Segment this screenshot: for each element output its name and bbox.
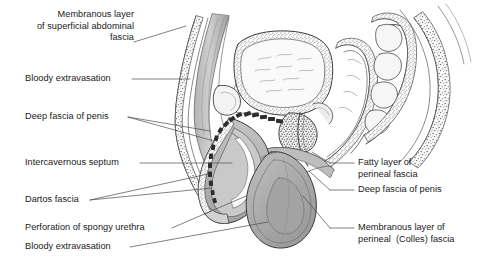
rectum bbox=[325, 38, 378, 167]
label-deep-fascia-of-penis-left: Deep fascia of penis bbox=[25, 111, 109, 123]
label-line-3: fascia bbox=[110, 32, 134, 42]
label-line-2: perineal (Colles) fascia bbox=[358, 234, 455, 244]
anatomical-figure: Membranous layerof superficial abdominal… bbox=[0, 0, 494, 264]
label-bloody-extravasation-lower: Bloody extravasation bbox=[25, 241, 111, 253]
label-line-2: of superficial abdominal bbox=[37, 21, 134, 31]
label-intercavernous-septum: Intercavernous septum bbox=[25, 157, 119, 169]
label-membranous-layer-of-perineal-colles-fascia: Membranous layer ofperineal (Colles) fas… bbox=[358, 222, 455, 245]
label-line-2: perineal fascia bbox=[358, 169, 418, 179]
label-bloody-extravasation-upper: Bloody extravasation bbox=[25, 73, 111, 85]
label-fatty-layer-of-perineal-fascia: Fatty layer ofperineal fascia bbox=[358, 157, 418, 180]
label-line-1: Membranous layer bbox=[58, 9, 134, 19]
label-membranous-layer-superficial-abdominal-fascia: Membranous layerof superficial abdominal… bbox=[18, 9, 134, 44]
label-deep-fascia-of-penis-right: Deep fascia of penis bbox=[358, 184, 442, 196]
label-dartos-fascia: Dartos fascia bbox=[25, 194, 79, 206]
label-perforation-of-spongy-urethra: Perforation of spongy urethra bbox=[25, 222, 145, 234]
pubic-bone bbox=[213, 85, 240, 115]
label-line-1: Membranous layer of bbox=[358, 222, 445, 232]
label-line-1: Fatty layer of bbox=[358, 157, 411, 167]
